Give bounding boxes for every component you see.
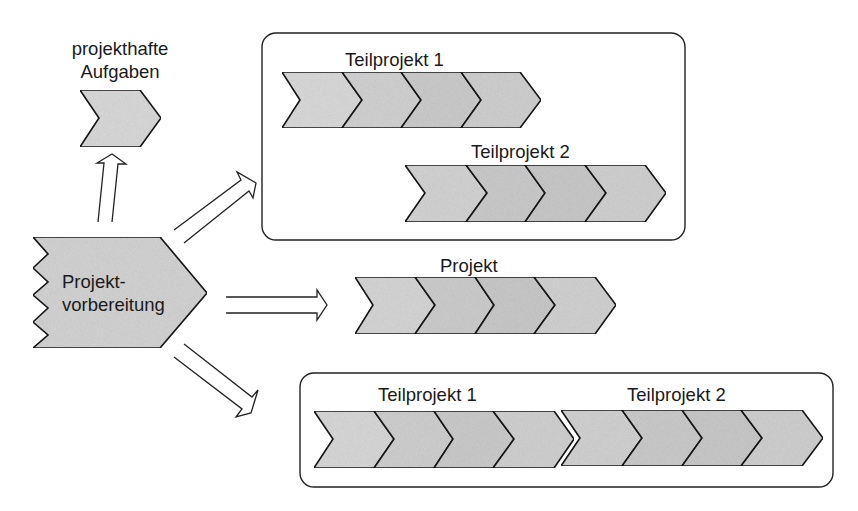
- arrow-up-icon: [97, 154, 126, 222]
- source-label-line2: vorbereitung: [62, 294, 165, 315]
- tasks-node: projekthafte Aufgaben: [72, 38, 169, 147]
- source-label-line1: Projekt-: [62, 271, 126, 292]
- source-node: Projekt- vorbereitung: [33, 237, 207, 348]
- parallel-subproject-2-label: Teilprojekt 2: [471, 141, 570, 162]
- sequential-subproject-1-phases: [314, 411, 574, 468]
- tasks-label-line2: Aufgaben: [80, 61, 159, 82]
- parallel-subprojects-group: Teilprojekt 1 Teilprojekt 2: [262, 33, 685, 240]
- parallel-subproject-1-phases: [282, 72, 541, 128]
- arrow-right-icon: [226, 290, 327, 320]
- tasks-chevron-icon: [80, 90, 161, 147]
- project-phases: [355, 277, 616, 334]
- single-project-group: Projekt: [355, 255, 616, 334]
- parallel-subproject-2-phases: [405, 165, 666, 222]
- sequential-subproject-2-label: Teilprojekt 2: [627, 384, 726, 405]
- source-chevron-icon: [33, 237, 207, 348]
- tasks-label-line1: projekthafte: [72, 38, 169, 59]
- arrow-to-sequential: [174, 344, 258, 417]
- arrow-to-project: [226, 290, 327, 320]
- arrow-up-to-tasks: [97, 154, 126, 222]
- sequential-subproject-2-phases: [561, 410, 823, 466]
- arrow-up-right-icon: [174, 172, 256, 243]
- arrow-to-parallel: [174, 172, 256, 243]
- project-label: Projekt: [440, 255, 498, 276]
- parallel-subproject-1-label: Teilprojekt 1: [345, 49, 444, 70]
- diagram-canvas: projekthafte Aufgaben Projekt- vorbereit…: [0, 0, 858, 511]
- sequential-subprojects-group: Teilprojekt 1 Teilprojekt 2: [300, 373, 833, 487]
- arrow-down-right-icon: [174, 344, 258, 417]
- sequential-subproject-1-label: Teilprojekt 1: [378, 384, 477, 405]
